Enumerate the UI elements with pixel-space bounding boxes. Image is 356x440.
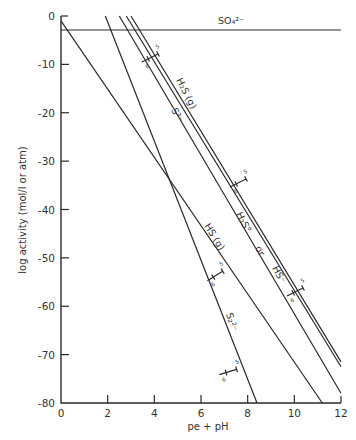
- label-hs-g: HS (g): [202, 221, 227, 252]
- axis-frame: [61, 16, 341, 403]
- svg-text:5: 5: [242, 168, 248, 175]
- y-tick-label: -60: [38, 300, 55, 312]
- svg-text:5: 5: [218, 260, 225, 267]
- series-lines: [61, 16, 341, 403]
- x-axis-title: pe + pH: [187, 421, 228, 432]
- label-or: or: [253, 244, 267, 258]
- svg-text:5: 5: [299, 277, 305, 284]
- x-tick-label: 2: [104, 407, 111, 419]
- x-tick-label: 10: [288, 407, 301, 419]
- y-tick-label: -80: [38, 397, 55, 409]
- marker-5-6: 56: [137, 43, 166, 70]
- marker-ticks: 5656565656: [137, 43, 311, 384]
- marker-5-6: 56: [216, 358, 244, 383]
- label-so4: SO₄²⁻: [218, 15, 244, 26]
- x-tick-label: 6: [198, 407, 205, 419]
- y-tick-label: -30: [38, 155, 55, 167]
- y-tick-label: -20: [38, 107, 55, 119]
- svg-text:5: 5: [154, 43, 160, 50]
- y-tick-label: -70: [38, 349, 55, 361]
- y-tick-label: -10: [38, 58, 55, 70]
- svg-text:6: 6: [210, 281, 217, 288]
- svg-text:6: 6: [289, 296, 295, 303]
- svg-text:6: 6: [221, 376, 227, 383]
- series-h2s-g-upper: [131, 16, 341, 362]
- marker-5-6: 56: [225, 168, 254, 195]
- series-s-2-: [119, 16, 341, 393]
- series-s2-2-: [105, 16, 257, 403]
- x-tick-label: 8: [244, 407, 251, 419]
- y-tick-label: -40: [38, 204, 55, 216]
- x-tick-label: 0: [58, 407, 65, 419]
- series-hs-g-: [61, 21, 322, 403]
- x-tick-label: 4: [151, 407, 158, 419]
- label-hs-minus: HS⁻: [270, 264, 288, 285]
- y-tick-label: 0: [48, 10, 55, 22]
- y-tick-label: -50: [38, 252, 55, 264]
- label-s2-2minus: S₂²⁻: [224, 311, 240, 332]
- chart: 0-10-20-30-40-50-60-70-80024681012 SO₄²⁻…: [0, 0, 356, 440]
- curve-labels: SO₄²⁻ H₂S (g) S²⁻ H₂S° or HS⁻ HS (g) S₂²…: [169, 15, 288, 332]
- y-axis-title: log activity (mol/l or atm): [17, 146, 28, 274]
- x-tick-label: 12: [334, 407, 347, 419]
